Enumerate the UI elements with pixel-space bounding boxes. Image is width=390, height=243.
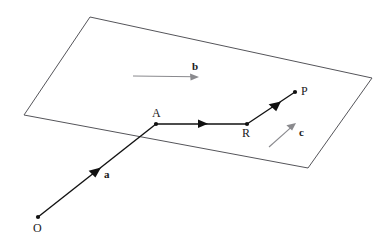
vector-b-group [133, 73, 199, 80]
vector-label-b: b [192, 60, 198, 72]
segment-r-to-p-group [247, 92, 295, 124]
vector-diagram-figure: O A R P a b c [0, 0, 390, 243]
point-label-r: R [242, 126, 250, 140]
vector-c-group [269, 123, 296, 147]
point-dot-a [154, 122, 158, 126]
point-label-a: A [152, 106, 161, 120]
diagram-canvas: O A R P a b c [0, 0, 390, 243]
segment-a-to-r-group [156, 120, 247, 128]
segment-a-to-r-arrowhead [198, 120, 208, 128]
vector-label-c: c [299, 126, 304, 138]
vector-label-a: a [104, 168, 110, 180]
vector-b-line [133, 76, 195, 77]
point-label-p: P [301, 84, 308, 98]
vector-c-line [269, 126, 293, 147]
plane-parallelogram [24, 17, 372, 168]
point-label-o: O [33, 221, 42, 235]
vector-c-arrowhead [286, 123, 296, 131]
segment-r-to-p-arrowhead [269, 101, 281, 111]
vector-b-arrowhead [190, 73, 199, 80]
segment-r-to-p [247, 92, 295, 124]
point-dot-o [36, 215, 40, 219]
segment-o-to-a-group [38, 124, 156, 217]
point-dot-p [293, 90, 297, 94]
